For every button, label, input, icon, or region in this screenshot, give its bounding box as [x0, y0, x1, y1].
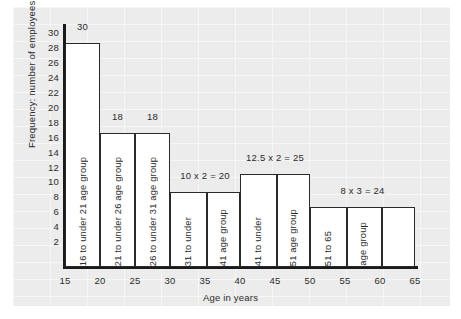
bar-value-annotation: 8 x 3 = 24: [341, 185, 385, 196]
x-axis-tick-label: 40: [235, 275, 246, 286]
histogram-bar: 16 to under 21 age group: [65, 43, 100, 267]
bar-label: 21 to under 26 age group: [101, 134, 136, 266]
x-axis-tick-label: 65: [410, 275, 421, 286]
histogram-bar: 26 to under 31 age group: [135, 133, 170, 267]
x-axis-tick-label: 35: [200, 275, 211, 286]
x-axis-tick-label: 55: [340, 275, 351, 286]
chart-page: Frequency: number of employees 246810121…: [0, 0, 461, 319]
bar-label-text: 16 to under 21 age group: [78, 153, 89, 266]
y-axis-tick-label: 4: [54, 221, 59, 232]
bar-label: 41 age group: [206, 193, 241, 266]
y-axis-tick-label: 10: [48, 176, 59, 187]
y-axis-tick-label: 8: [54, 191, 59, 202]
x-axis-tick-label: 60: [375, 275, 386, 286]
x-axis-title: Age in years: [0, 292, 461, 303]
x-axis-tick-label: 25: [130, 275, 141, 286]
y-axis-tick-label: 30: [48, 27, 59, 38]
bar-label-text: age group: [358, 218, 369, 266]
y-axis-tick-label: 18: [48, 116, 59, 127]
plot-area: 24681012141618202224262830 1520253035404…: [65, 36, 415, 267]
bar-internal-divider: [381, 208, 383, 266]
y-axis-tick-label: 26: [48, 57, 59, 68]
bar-value-annotation: 12.5 x 2 = 25: [246, 152, 304, 163]
bar-label-text: 31 to under: [183, 213, 194, 266]
bar-value-annotation: 18: [112, 111, 123, 122]
y-axis-tick-label: 22: [48, 87, 59, 98]
x-axis-tick-label: 30: [165, 275, 176, 286]
x-axis-tick-label: 20: [95, 275, 106, 286]
bar-label: 41 to under: [241, 175, 276, 266]
x-axis-tick-label: 45: [270, 275, 281, 286]
y-axis-tick-label: 2: [54, 236, 59, 247]
bar-label-text: 41 age group: [218, 205, 229, 266]
y-axis-tick-label: 12: [48, 161, 59, 172]
bar-label: age group: [346, 208, 381, 266]
bar-value-annotation: 30: [77, 21, 88, 32]
y-axis-tick-label: 24: [48, 72, 59, 83]
bar-label-text: 21 to under 26 age group: [113, 153, 124, 266]
bar-label: 26 to under 31 age group: [136, 134, 171, 266]
bar-label-text: 51 to 65: [323, 227, 334, 266]
x-axis-tick-label: 50: [305, 275, 316, 286]
histogram-bar: 41 to under51 age group: [240, 174, 310, 267]
bar-label: 51 age group: [276, 175, 311, 266]
histogram-bar: 31 to under41 age group: [170, 192, 240, 267]
y-axis-tick-label: 6: [54, 206, 59, 217]
y-axis-tick-label: 14: [48, 146, 59, 157]
bar-label-text: 51 age group: [288, 205, 299, 266]
histogram-bar: 21 to under 26 age group: [100, 133, 135, 267]
y-axis-tick-label: 28: [48, 42, 59, 53]
bar-label: 31 to under: [171, 193, 206, 266]
bar-label-text: 41 to under: [253, 213, 264, 266]
bar-value-annotation: 18: [147, 111, 158, 122]
histogram-bar: 51 to 65age group: [310, 207, 415, 267]
bar-label: 16 to under 21 age group: [66, 44, 101, 266]
bar-value-annotation: 10 x 2 = 20: [180, 170, 229, 181]
bar-label: 51 to 65: [311, 208, 346, 266]
y-axis-title: Frequency: number of employees: [26, 0, 37, 148]
bar-label-text: 26 to under 31 age group: [148, 153, 159, 266]
x-axis-tick-label: 15: [60, 275, 71, 286]
y-axis-tick-label: 20: [48, 101, 59, 112]
y-axis-tick-label: 16: [48, 131, 59, 142]
